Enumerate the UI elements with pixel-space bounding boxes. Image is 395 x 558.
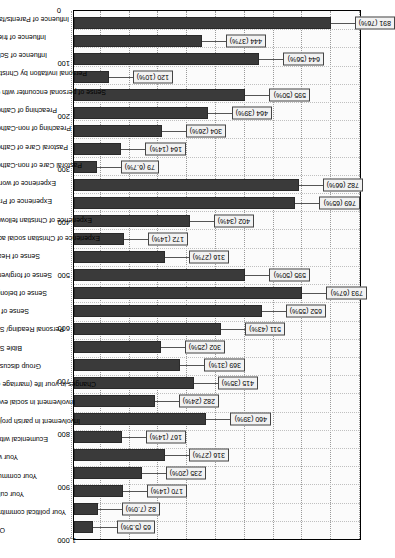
bar-group[interactable]: 167 (14%) [74,428,360,446]
bar[interactable] [74,449,165,460]
leader-line [109,77,133,78]
category-label: Pastoral Care of Catholics [0,144,68,151]
bar[interactable] [74,503,98,514]
bar-group[interactable]: 595 (50%) [74,266,360,284]
bar-value-label: 170 (14%) [147,485,187,498]
bar-value-label: 79 (6.7%) [121,161,159,174]
bar[interactable] [74,485,123,496]
bar-group[interactable]: 304 (26%) [74,122,360,140]
category-label: Preaching of Catholics [0,107,57,114]
bar-group[interactable]: 793 (67%) [74,284,360,302]
leader-line [121,149,145,150]
bar[interactable] [74,251,165,262]
leader-line [262,311,286,312]
bar-group[interactable]: 402 (34%) [74,212,360,230]
bar[interactable] [74,143,121,154]
bar[interactable] [74,17,331,28]
bar-group[interactable]: 415 (35%) [74,374,360,392]
bar-value-label: 644 (56%) [283,53,323,66]
bar-group[interactable]: 316 (27%) [74,248,360,266]
bar-group[interactable]: 282 (24%) [74,392,360,410]
bar-group[interactable]: 782 (66%) [74,176,360,194]
value-axis-tick: 1,000 [57,536,76,545]
bar[interactable] [74,35,202,46]
bar-group[interactable]: 595 (50%) [74,86,360,104]
category-label: Your community [0,473,37,480]
bar-group[interactable]: 235 (20%) [74,464,360,482]
leader-line [180,365,204,366]
bar-group[interactable]: 164 (14%) [74,140,360,158]
leader-line [259,59,283,60]
bar[interactable] [74,413,206,424]
category-label: Bible Study [0,345,22,352]
bar-value-label: 595 (50%) [269,89,309,102]
category-label: Involvement in parish projects [0,418,80,425]
bar-value-label: 167 (14%) [146,431,186,444]
bar-value-label: 316 (27%) [189,449,229,462]
category-label: Personal invitation by Christians [0,70,87,77]
bar-value-label: 444 (37%) [226,35,266,48]
category-label: Personal Reading/ Study [0,326,64,333]
leader-line [194,383,218,384]
category-label: Your culture [0,491,24,498]
bar[interactable] [74,359,180,370]
category-label: Influence of Parents/family [0,16,70,23]
leader-line [299,185,323,186]
bar-group[interactable]: 120 (10%) [74,68,360,86]
bar-group[interactable]: 79 (6.7%) [74,158,360,176]
bar[interactable] [74,467,142,478]
bar-value-label: 891 (76%) [355,17,395,30]
bar[interactable] [74,269,245,280]
bar-value-label: 316 (27%) [189,251,229,264]
leader-line [165,257,189,258]
bar[interactable] [74,341,161,352]
category-label: Influence of School [0,52,47,59]
bar[interactable] [74,323,221,334]
bar[interactable] [74,125,162,136]
value-axis-tick: 900 [57,483,70,492]
bar-group[interactable]: 644 (56%) [74,50,360,68]
category-label: Sense of love [0,308,29,315]
bar[interactable] [74,521,93,532]
leader-line [161,347,185,348]
category-label: Your political commitment [0,509,67,516]
leader-line [202,41,226,42]
leader-line [206,419,230,420]
value-axis-tick: 100 [57,59,70,68]
category-label: Other [0,527,5,534]
bar-value-label: 235 (20%) [166,467,206,480]
bar[interactable] [74,305,262,316]
bar-group[interactable]: 460 (39%) [74,410,360,428]
category-label: Involvement in social events [0,399,75,406]
leader-line [124,239,148,240]
bar-group[interactable]: 65 (5.5%) [74,518,360,536]
leader-line [155,401,179,402]
bar-group[interactable]: 891 (76%) [74,14,360,32]
bar[interactable] [74,179,299,190]
bar[interactable] [74,287,302,298]
bar-value-label: 82 (7.0%) [122,503,160,516]
bar[interactable] [74,395,155,406]
bar-value-label: 464 (39%) [232,107,272,120]
leader-line [97,167,121,168]
bar[interactable] [74,53,259,64]
bar-group[interactable]: 769 (65%) [74,194,360,212]
category-label: Experience of Prayer [0,198,52,205]
bar-group[interactable]: 444 (37%) [74,32,360,50]
leader-line [331,23,355,24]
bar[interactable] [74,431,122,442]
value-axis-tick: 200 [57,112,70,121]
bar-group[interactable]: 652 (55%) [74,302,360,320]
bar[interactable] [74,107,208,118]
bar-group[interactable]: 464 (39%) [74,104,360,122]
bar-group[interactable]: 511 (43%) [74,320,360,338]
bar-group[interactable]: 302 (25%) [74,338,360,356]
bar-group[interactable]: 369 (31%) [74,356,360,374]
bar-value-label: 302 (25%) [185,341,225,354]
bar-group[interactable]: 172 (14%) [74,230,360,248]
bar-group[interactable]: 82 (7.0%) [74,500,360,518]
bar-group[interactable]: 316 (27%) [74,446,360,464]
bar[interactable] [74,197,295,208]
bar-group[interactable]: 170 (14%) [74,482,360,500]
